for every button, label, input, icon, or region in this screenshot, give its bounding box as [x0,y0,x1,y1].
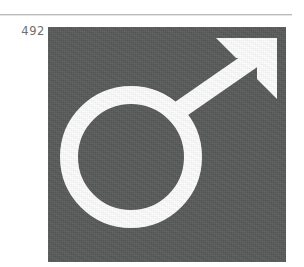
figure-page: 492 [0,0,304,267]
dark-square-plate [48,27,286,262]
figure-number-label: 492 [17,24,45,38]
top-horizontal-rule-shadow [0,15,292,16]
mars-male-symbol-icon [48,27,286,262]
mars-symbol-shaft [175,52,263,113]
mars-symbol-ring [69,95,193,219]
